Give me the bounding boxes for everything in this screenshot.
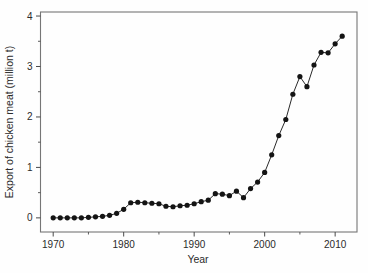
- data-point: [65, 215, 70, 220]
- x-axis-label: Year: [187, 253, 209, 265]
- data-point: [149, 201, 154, 206]
- data-point: [276, 133, 281, 138]
- plot-area: 1970198019902000201001234: [27, 11, 357, 250]
- data-point: [192, 201, 197, 206]
- data-line: [53, 36, 342, 218]
- data-point: [185, 203, 190, 208]
- data-point: [304, 84, 309, 89]
- data-point: [107, 213, 112, 218]
- x-tick-label: 2000: [254, 239, 277, 250]
- data-point: [318, 50, 323, 55]
- data-point: [227, 193, 232, 198]
- data-point: [248, 186, 253, 191]
- data-point: [156, 201, 161, 206]
- x-tick-label: 2010: [324, 239, 347, 250]
- data-point: [114, 211, 119, 216]
- data-point: [234, 189, 239, 194]
- y-tick-label: 0: [27, 212, 33, 223]
- data-point: [213, 191, 218, 196]
- data-point: [135, 200, 140, 205]
- data-point: [79, 215, 84, 220]
- data-point: [100, 214, 105, 219]
- data-point: [199, 199, 204, 204]
- data-point: [206, 198, 211, 203]
- y-tick-label: 2: [27, 111, 33, 122]
- data-point: [58, 215, 63, 220]
- data-point: [128, 200, 133, 205]
- y-tick-label: 3: [27, 61, 33, 72]
- data-point: [311, 62, 316, 67]
- chicken-meat-export-chart: 1970198019902000201001234 Year Export of…: [0, 0, 368, 273]
- y-axis-label: Export of chicken meat (million t): [3, 46, 15, 198]
- data-point: [142, 200, 147, 205]
- figure-page: 1970198019902000201001234 Year Export of…: [0, 0, 368, 273]
- data-point: [269, 152, 274, 157]
- data-point: [86, 215, 91, 220]
- data-point: [333, 41, 338, 46]
- data-point: [93, 214, 98, 219]
- plot-frame: [41, 12, 358, 232]
- data-point: [170, 204, 175, 209]
- data-point: [163, 204, 168, 209]
- data-point: [121, 207, 126, 212]
- data-point: [290, 92, 295, 97]
- data-point: [297, 74, 302, 79]
- data-point: [340, 34, 345, 39]
- data-point: [241, 195, 246, 200]
- data-point: [283, 117, 288, 122]
- data-point: [262, 170, 267, 175]
- data-point: [220, 192, 225, 197]
- data-point: [255, 179, 260, 184]
- x-tick-label: 1970: [42, 239, 65, 250]
- data-point: [325, 50, 330, 55]
- data-point: [177, 203, 182, 208]
- y-tick-label: 4: [27, 11, 33, 22]
- y-tick-label: 1: [27, 162, 33, 173]
- data-point: [72, 215, 77, 220]
- x-tick-label: 1980: [113, 239, 136, 250]
- x-tick-label: 1990: [183, 239, 206, 250]
- data-point: [51, 215, 56, 220]
